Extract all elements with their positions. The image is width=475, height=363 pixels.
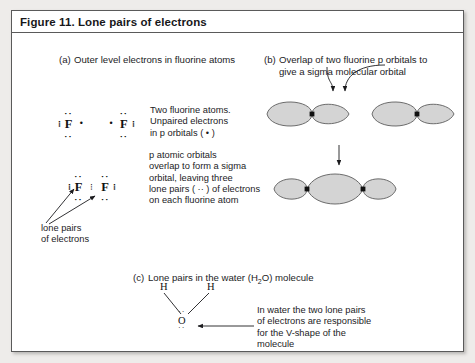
electron-pair-left bbox=[58, 123, 61, 126]
water-bonds bbox=[140, 281, 250, 341]
note-water-vshape: In water the two lone pairs of electrons… bbox=[257, 305, 392, 350]
figure-header: Figure 11. Lone pairs of electrons bbox=[12, 11, 463, 33]
water-molecule-diagram: H H ·· O ·· bbox=[140, 281, 250, 341]
electron-pair-bottom: ·· bbox=[120, 135, 128, 138]
electron-pair-bottom: ·· bbox=[64, 135, 72, 138]
section-a-tag: (a) bbox=[59, 54, 74, 65]
oxygen-lone-pair-bottom: ·· bbox=[178, 326, 185, 330]
sigma-molecular-orbital bbox=[265, 165, 465, 213]
lone-pair-arrows bbox=[36, 183, 126, 228]
oxygen-lone-pair-top: ·· bbox=[178, 310, 185, 314]
nucleus-right bbox=[361, 187, 366, 192]
unpaired-electron-right: • bbox=[106, 118, 116, 128]
section-b-heading-line2: give a sigma molecular orbital bbox=[264, 66, 454, 77]
arrow-to-left-lone-pair bbox=[46, 189, 74, 223]
section-c-heading-post: O) molecule bbox=[262, 272, 314, 283]
figure-title: Figure 11. Lone pairs of electrons bbox=[12, 16, 207, 28]
unpaired-electron-left: • bbox=[76, 118, 86, 128]
section-b-heading-line1: Overlap of two fluorine p orbitals to bbox=[279, 54, 427, 65]
note-orbital-overlap: p atomic orbitals overlap to form a sigm… bbox=[149, 150, 264, 206]
bond-right bbox=[188, 293, 209, 314]
arrow-to-right-lone-pair bbox=[49, 196, 95, 224]
electron-pair-top: ·· bbox=[101, 175, 109, 178]
fluorine-atom-right: ·· ·· F bbox=[119, 118, 128, 131]
p-orbitals-pair bbox=[265, 89, 465, 139]
section-b-heading: (b)Overlap of two fluorine p orbitals to… bbox=[264, 43, 454, 89]
section-a-heading: (a)Outer level electrons in fluorine ato… bbox=[59, 43, 235, 66]
figure-card: Figure 11. Lone pairs of electrons (a)Ou… bbox=[11, 10, 464, 352]
lewis-two-fluorine-atoms: ·· ·· F • • ·· ·· F bbox=[64, 117, 128, 131]
electron-pair-top: ·· bbox=[120, 112, 128, 115]
figure-body: (a)Outer level electrons in fluorine ato… bbox=[12, 33, 463, 352]
electron-pair-right bbox=[132, 123, 135, 126]
section-b-tag: (b) bbox=[264, 54, 279, 65]
p-orbital-right bbox=[372, 102, 454, 126]
p-orbital-left bbox=[267, 102, 349, 126]
lone-pairs-caption: lone pairs of electrons bbox=[41, 223, 89, 246]
fluorine-atom-left: ·· ·· F bbox=[64, 118, 73, 131]
nucleus-left bbox=[305, 187, 310, 192]
electron-pair-top: ·· bbox=[74, 175, 82, 178]
fluorine-symbol: F bbox=[65, 117, 73, 131]
note-unpaired-electrons: Two fluorine atoms. Unpaired electrons i… bbox=[150, 105, 260, 139]
section-a-heading-text: Outer level electrons in fluorine atoms bbox=[74, 54, 235, 65]
electron-pair-top: ·· bbox=[64, 112, 72, 115]
fluorine-symbol: F bbox=[120, 117, 128, 131]
